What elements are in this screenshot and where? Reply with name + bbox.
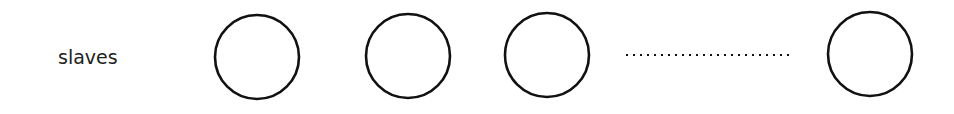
- slave-n-node-circle: [828, 12, 912, 96]
- slave-2-node-circle: [366, 14, 450, 98]
- slave-1-node-circle: [215, 15, 299, 99]
- diagram-canvas: [0, 0, 954, 114]
- slave-3-node-circle: [505, 13, 589, 97]
- slave-nodes: [215, 12, 912, 99]
